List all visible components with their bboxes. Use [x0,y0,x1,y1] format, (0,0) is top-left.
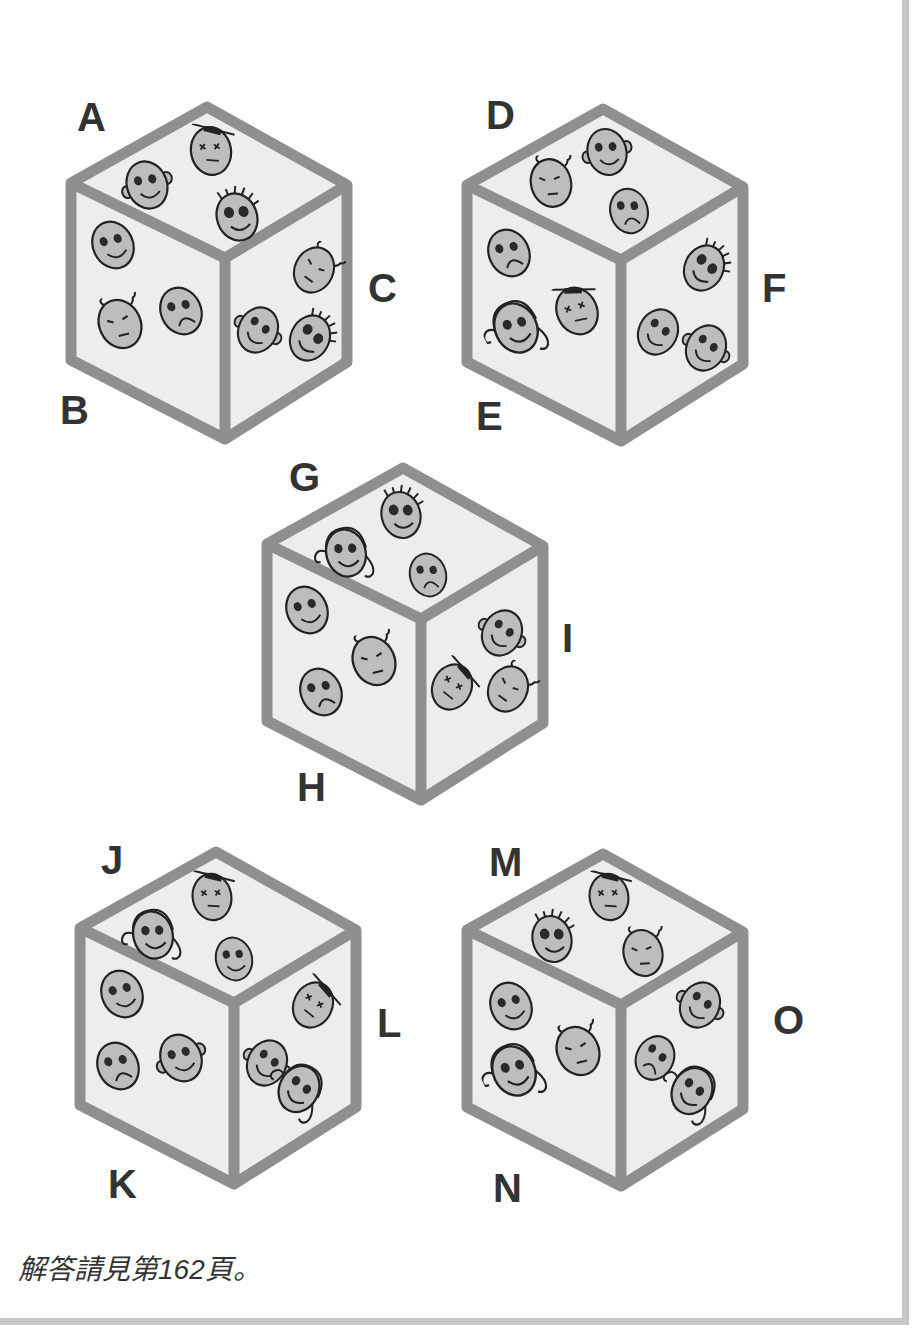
label-k: K [108,1164,137,1204]
label-o: O [773,1000,804,1040]
cube-jkl-drawing [76,848,376,1208]
label-l: L [377,1003,401,1043]
cube-def-drawing [463,105,763,465]
cube-def [463,105,763,465]
label-f: F [762,268,786,308]
cube-mno-drawing [463,850,763,1210]
label-d: D [486,95,515,135]
cube-mno [463,850,763,1210]
label-c: C [368,268,397,308]
label-j: J [101,840,123,880]
cube-abc-drawing [67,103,367,463]
label-m: M [489,842,522,882]
page-frame-right-border [902,0,909,1325]
label-a: A [77,97,106,137]
cube-jkl [76,848,376,1208]
label-n: N [493,1168,522,1208]
label-e: E [476,396,503,436]
cube-abc [67,103,367,463]
label-g: G [289,457,320,497]
label-i: I [562,618,573,658]
page-frame-bottom-border [0,1318,909,1325]
answer-page-note: 解答請見第162頁。 [18,1247,261,1287]
label-h: H [297,767,326,807]
label-b: B [60,390,89,430]
